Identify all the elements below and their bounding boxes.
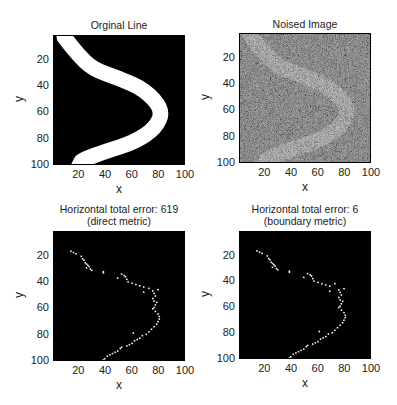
x-tick-label: 100: [170, 365, 200, 376]
plot-area: [53, 35, 185, 165]
error-scatter: [240, 232, 370, 358]
y-tick-label: 100: [211, 353, 235, 364]
y-axis-label: y: [12, 285, 26, 305]
y-tick-label: 40: [25, 276, 49, 287]
x-tick-label: 20: [63, 169, 93, 180]
y-tick-label: 80: [25, 133, 49, 144]
y-tick-label: 20: [211, 52, 235, 63]
y-tick-label: 80: [211, 327, 235, 338]
plot-area: [239, 231, 371, 359]
y-axis-label: y: [198, 284, 212, 304]
y-axis-label: y: [12, 89, 26, 109]
x-tick-label: 40: [90, 169, 120, 180]
panel-title: Orginal Line: [53, 19, 185, 32]
noised-image: [240, 34, 370, 162]
x-axis-label: x: [295, 180, 315, 194]
x-tick-label: 60: [117, 169, 147, 180]
x-tick-label: 80: [329, 363, 359, 374]
y-tick-label: 60: [25, 106, 49, 117]
y-tick-label: 80: [25, 329, 49, 340]
x-tick-label: 60: [303, 167, 333, 178]
y-tick-label: 100: [211, 157, 235, 168]
x-tick-label: 40: [276, 363, 306, 374]
x-tick-label: 40: [276, 167, 306, 178]
x-tick-label: 80: [329, 167, 359, 178]
x-tick-label: 100: [356, 167, 386, 178]
y-tick-label: 40: [25, 80, 49, 91]
panel-subtitle: (boundary metric): [239, 215, 371, 228]
x-axis-label: x: [295, 376, 315, 390]
y-tick-label: 20: [25, 54, 49, 65]
x-tick-label: 20: [63, 365, 93, 376]
y-tick-label: 20: [25, 250, 49, 261]
x-tick-label: 40: [90, 365, 120, 376]
y-tick-label: 60: [25, 302, 49, 313]
x-tick-label: 20: [249, 363, 279, 374]
x-axis-label: x: [109, 378, 129, 392]
x-tick-label: 100: [356, 363, 386, 374]
y-tick-label: 60: [211, 301, 235, 312]
y-tick-label: 20: [211, 250, 235, 261]
plot-area: [239, 33, 371, 163]
x-axis-label: x: [109, 182, 129, 196]
original-line-image: [54, 36, 184, 164]
panel-title: Noised Image: [239, 18, 371, 31]
y-axis-label: y: [198, 87, 212, 107]
y-tick-label: 40: [211, 275, 235, 286]
x-tick-label: 20: [249, 167, 279, 178]
x-tick-label: 60: [117, 365, 147, 376]
y-tick-label: 60: [211, 104, 235, 115]
x-tick-label: 80: [143, 169, 173, 180]
error-scatter: [54, 232, 184, 360]
panel-subtitle: (direct metric): [53, 215, 185, 228]
plot-area: [53, 231, 185, 361]
y-tick-label: 100: [25, 355, 49, 366]
x-tick-label: 100: [170, 169, 200, 180]
y-tick-label: 80: [211, 131, 235, 142]
y-tick-label: 40: [211, 78, 235, 89]
y-tick-label: 100: [25, 159, 49, 170]
x-tick-label: 80: [143, 365, 173, 376]
x-tick-label: 60: [303, 363, 333, 374]
